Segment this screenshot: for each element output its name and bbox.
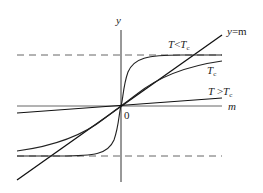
label-t-eq-tc: Tc bbox=[207, 65, 216, 78]
label-t-greater-tc: T >Tc bbox=[208, 86, 232, 99]
label-tc-sub: c bbox=[229, 91, 232, 99]
label-tc-sub: c bbox=[213, 70, 216, 78]
label-y-eq-m: y=m bbox=[227, 26, 247, 37]
label-eq-m: =m bbox=[232, 25, 247, 37]
y-axis-label: y bbox=[116, 15, 121, 26]
label-t-less-tc: T<Tc bbox=[168, 39, 190, 52]
origin-label: 0 bbox=[124, 110, 130, 121]
m-axis-label: m bbox=[228, 101, 236, 112]
label-op: > bbox=[214, 85, 223, 97]
label-tc-sub: c bbox=[186, 44, 189, 52]
